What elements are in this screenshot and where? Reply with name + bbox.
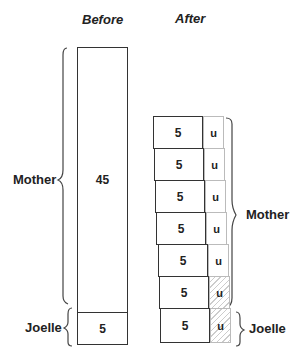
before-mother-value: 45 bbox=[96, 173, 109, 187]
after-row-value: 5 bbox=[178, 222, 185, 236]
after-row-4: 5 bbox=[156, 212, 206, 245]
after-row-value: 5 bbox=[176, 158, 183, 172]
after-unit-7-hatched: u bbox=[210, 308, 231, 343]
after-row-value: 5 bbox=[177, 190, 184, 204]
after-unit-1: u bbox=[203, 116, 224, 149]
after-unit-3: u bbox=[205, 180, 226, 213]
after-unit-label: u bbox=[215, 255, 222, 267]
before-mother-label: Mother bbox=[13, 172, 56, 187]
after-unit-label: u bbox=[212, 191, 219, 203]
after-row-3: 5 bbox=[155, 180, 205, 213]
after-unit-4: u bbox=[206, 212, 227, 245]
after-row-1: 5 bbox=[153, 116, 203, 149]
after-unit-5: u bbox=[208, 244, 229, 277]
after-row-2: 5 bbox=[154, 148, 204, 181]
before-joelle-bar: 5 bbox=[77, 312, 128, 345]
after-unit-label: u bbox=[216, 287, 223, 299]
before-mother-bar: 45 bbox=[77, 47, 128, 313]
after-unit-2: u bbox=[204, 148, 225, 181]
after-row-value: 5 bbox=[182, 319, 189, 333]
after-row-7: 5 bbox=[160, 308, 210, 343]
after-row-value: 5 bbox=[180, 254, 187, 268]
after-unit-6-hatched: u bbox=[209, 276, 230, 309]
after-row-value: 5 bbox=[181, 286, 188, 300]
after-row-6: 5 bbox=[159, 276, 209, 309]
after-unit-label: u bbox=[211, 159, 218, 171]
after-joelle-label: Joelle bbox=[249, 321, 286, 336]
after-unit-label: u bbox=[210, 127, 217, 139]
before-joelle-value: 5 bbox=[99, 322, 106, 336]
after-row-value: 5 bbox=[175, 126, 182, 140]
after-unit-label: u bbox=[213, 223, 220, 235]
after-row-5: 5 bbox=[158, 244, 208, 277]
before-joelle-label: Joelle bbox=[25, 320, 62, 335]
after-mother-label: Mother bbox=[246, 207, 289, 222]
after-unit-label: u bbox=[217, 320, 224, 332]
